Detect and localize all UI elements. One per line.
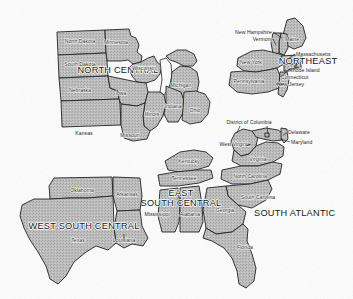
state-district-of-columbia [265, 133, 269, 137]
state-label-north-carolina: North Carolina [233, 173, 267, 179]
state-label-delaware: Delaware [288, 129, 310, 135]
state-label-maine: Maine [285, 36, 299, 42]
state-label-texas: Texas [71, 237, 85, 243]
state-label-maryland: Maryland [291, 139, 312, 145]
region-label-northeast: NORTHEAST [279, 56, 338, 66]
region-label-east-south-central-line2: SOUTH CENTRAL [141, 198, 222, 208]
state-label-south-dakota: South Dakota [64, 61, 96, 67]
state-label-new-hampshire: New Hampshire [235, 29, 272, 35]
us-census-regions-map: NORTH CENTRAL North Dakota Minnesota Sou… [0, 0, 353, 299]
state-label-indiana: Indiana [164, 103, 181, 109]
region-label-west-south-central: WEST SOUTH CENTRAL [28, 221, 139, 231]
state-label-pennsylvania: Pennsylvania [234, 78, 265, 84]
state-label-florida: Florida [237, 244, 253, 250]
state-label-virginia: Virginia [249, 156, 266, 162]
state-label-south-carolina: South Carolina [241, 194, 276, 200]
state-label-missouri: Missouri [120, 132, 139, 138]
state-label-kansas: Kansas [75, 130, 93, 136]
state-label-mississippi: Mississippi [144, 211, 169, 217]
state-label-nebraska: Nebraska [69, 87, 91, 93]
state-label-kentucky: Kentucky [178, 158, 200, 164]
map-canvas: NORTH CENTRAL North Dakota Minnesota Sou… [0, 0, 353, 299]
state-label-rhode-island: Rhode Island [289, 67, 320, 73]
state-label-west-virginia: West Virginia [220, 141, 251, 147]
state-label-ohio: Ohio [190, 107, 201, 113]
state-label-tennessee: Tennessee [171, 175, 196, 181]
state-label-district-of-columbia: District of Columbia [226, 119, 271, 125]
state-label-vermont: Vermont [253, 36, 273, 42]
state-label-minnesota: Minnesota [104, 39, 128, 45]
state-label-alabama: Alabama [180, 211, 201, 217]
state-label-michigan: Michigan [171, 82, 192, 88]
state-kansas [61, 99, 121, 127]
state-label-new-york: New York [240, 59, 262, 65]
state-label-massachusetts: Massachusetts [296, 51, 331, 57]
state-label-connecticut: Connecticut [281, 74, 309, 80]
state-label-arkansas: Arkansas [116, 191, 138, 197]
region-label-south-atlantic: SOUTH ATLANTIC [254, 208, 336, 218]
state-label-iowa: Iowa [116, 90, 127, 96]
state-label-wisconsin: Wisconsin [132, 65, 156, 71]
region-label-east-south-central-line1: EAST [169, 188, 194, 198]
state-label-north-dakota: North Dakota [65, 38, 96, 44]
state-label-oklahoma: Oklahoma [70, 187, 94, 193]
state-label-illinois: Illinois [145, 111, 160, 117]
